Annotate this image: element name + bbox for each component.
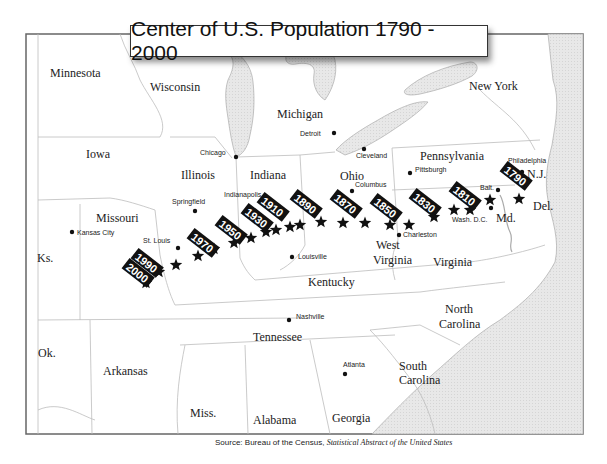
city-dot-icon bbox=[397, 233, 401, 237]
city-dot-icon bbox=[350, 189, 354, 193]
city-label: Atlanta bbox=[343, 361, 365, 368]
city-label: Charleston bbox=[403, 231, 437, 238]
population-center-map: MinnesotaWisconsinMichiganNew YorkIowaIl… bbox=[0, 0, 607, 464]
state-label: Arkansas bbox=[103, 364, 148, 378]
state-label: Michigan bbox=[277, 107, 323, 121]
source-publication: Statistical Abstract of the United State… bbox=[327, 438, 453, 447]
state-label: Virginia bbox=[373, 253, 413, 267]
state-label: Indiana bbox=[250, 168, 287, 182]
city-dot-icon bbox=[343, 372, 347, 376]
city-dot-icon bbox=[287, 318, 291, 322]
state-label: Alabama bbox=[253, 413, 297, 427]
city-label: Philadelphia bbox=[508, 157, 546, 165]
state-label: Ok. bbox=[38, 346, 56, 360]
state-label: Virginia bbox=[433, 255, 473, 269]
state-label: Kentucky bbox=[308, 275, 355, 289]
state-label: South bbox=[399, 359, 427, 373]
map-title-text: Center of U.S. Population 1790 - 2000 bbox=[131, 17, 487, 65]
state-label: Del. bbox=[533, 199, 553, 213]
city-label: Chicago bbox=[200, 149, 226, 157]
city-dot-icon bbox=[408, 171, 412, 175]
city-dot-icon bbox=[496, 188, 500, 192]
city-label: Columbus bbox=[355, 181, 387, 188]
state-label: Illinois bbox=[181, 168, 215, 182]
city-dot-icon bbox=[332, 131, 336, 135]
city-dot-icon bbox=[234, 155, 238, 159]
state-label: Md. bbox=[496, 211, 516, 225]
state-label: Missouri bbox=[96, 211, 139, 225]
source-citation: Source: Bureau of the Census, Statistica… bbox=[215, 438, 452, 447]
city-label: Indianapolis bbox=[224, 191, 262, 199]
state-label: Minnesota bbox=[50, 66, 101, 80]
city-label: Nashville bbox=[296, 313, 325, 320]
city-label: St. Louis bbox=[143, 237, 171, 244]
city-dot-icon bbox=[70, 230, 74, 234]
state-label: New York bbox=[469, 79, 518, 93]
city-dot-icon bbox=[489, 206, 493, 210]
state-label: Ks. bbox=[37, 251, 53, 265]
state-label: Carolina bbox=[399, 373, 441, 387]
source-prefix: Source: Bureau of the Census, bbox=[215, 438, 324, 447]
state-label: Iowa bbox=[86, 147, 111, 161]
city-dot-icon bbox=[290, 255, 294, 259]
city-label: Springfield bbox=[172, 198, 205, 206]
state-label: Georgia bbox=[332, 411, 371, 425]
city-dot-icon bbox=[362, 147, 366, 151]
state-label: Miss. bbox=[190, 406, 216, 420]
city-dot-icon bbox=[193, 209, 197, 213]
city-label: Balt. bbox=[480, 184, 494, 191]
city-label: Louisville bbox=[298, 253, 327, 260]
state-label: Pennsylvania bbox=[420, 149, 485, 163]
city-label: Wash. D.C. bbox=[452, 216, 488, 223]
state-label: North bbox=[445, 302, 473, 316]
state-label: Carolina bbox=[439, 317, 481, 331]
city-label: Kansas City bbox=[77, 229, 115, 237]
city-label: Pittsburgh bbox=[415, 166, 447, 174]
city-label: Cleveland bbox=[356, 152, 387, 159]
city-dot-icon bbox=[176, 246, 180, 250]
state-label: West bbox=[376, 238, 400, 252]
map-title: Center of U.S. Population 1790 - 2000 bbox=[130, 25, 488, 57]
state-label: Tennessee bbox=[253, 330, 302, 344]
city-label: Detroit bbox=[300, 130, 321, 137]
state-label: Wisconsin bbox=[150, 80, 200, 94]
